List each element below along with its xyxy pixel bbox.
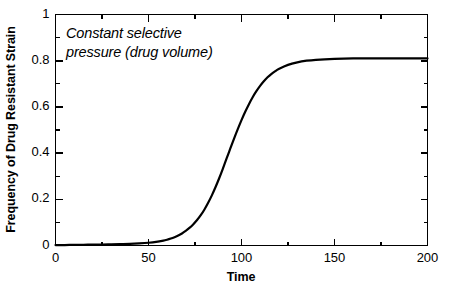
chart-figure: Frequency of Drug Resistant Strain 00.20…: [0, 0, 449, 293]
y-tick-label: 0.2: [0, 190, 50, 205]
x-tick-label: 200: [388, 250, 449, 265]
x-axis-title: Time: [55, 270, 427, 284]
x-tick-label: 150: [295, 250, 375, 265]
x-tick-label: 50: [109, 250, 189, 265]
y-tick-label: 1: [0, 6, 50, 21]
plot-annotation: Constant selective pressure (drug volume…: [66, 24, 296, 62]
x-tick-label: 0: [16, 250, 96, 265]
x-tick-label: 100: [202, 250, 282, 265]
y-tick-label: 0.4: [0, 144, 50, 159]
y-tick-label: 0.8: [0, 52, 50, 67]
y-tick-label: 0.6: [0, 98, 50, 113]
